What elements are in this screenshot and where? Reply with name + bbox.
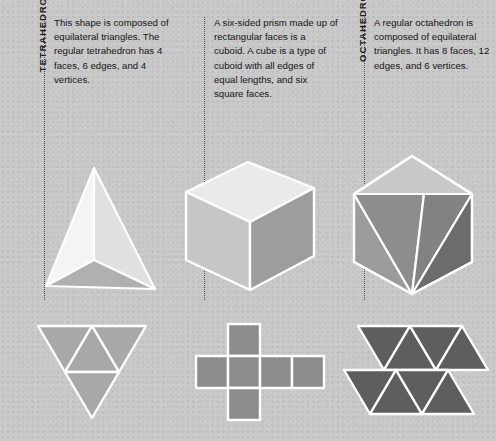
cube-net-square-right — [260, 356, 292, 388]
tetrahedron-net-triangle-4 — [65, 372, 119, 418]
cube-net-square-bottom — [228, 388, 260, 420]
octahedron-net — [338, 318, 496, 433]
description-cube: A six-sided prism made up of rectangular… — [214, 16, 338, 101]
column-cube: CUBE A six-sided prism made up of rectan… — [178, 0, 338, 441]
label-octahedron: OCTAHEDRON — [357, 0, 368, 106]
label-cube: CUBE — [187, 0, 198, 81]
label-tetrahedron: TETRAHEDRON — [37, 0, 48, 110]
description-octahedron: A regular octahedron is composed of equi… — [374, 16, 496, 73]
cube-net — [178, 318, 338, 433]
octahedron-face-top-band — [354, 156, 472, 194]
description-tetrahedron: This shape is composed of equilateral tr… — [54, 16, 178, 87]
octahedron-solid — [338, 150, 496, 315]
tetrahedron-net — [18, 318, 178, 433]
tetrahedron-solid — [18, 150, 178, 315]
column-octahedron: OCTAHEDRON A regular octahedron is compo… — [338, 0, 496, 441]
cube-solid — [178, 150, 338, 315]
cube-net-square-center — [228, 356, 260, 388]
column-tetrahedron: TETRAHEDRON This shape is composed of eq… — [18, 0, 178, 441]
cube-net-square-left — [196, 356, 228, 388]
cube-net-square-far-right — [292, 356, 324, 388]
cube-net-square-top — [228, 324, 260, 356]
